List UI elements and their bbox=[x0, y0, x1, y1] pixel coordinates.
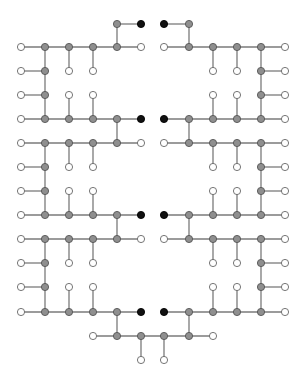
node-gray bbox=[113, 20, 120, 27]
node-black bbox=[137, 115, 144, 122]
node-gray bbox=[65, 211, 72, 218]
node-gray bbox=[137, 332, 144, 339]
node-gray bbox=[113, 332, 120, 339]
node-white bbox=[65, 283, 72, 290]
node-gray bbox=[233, 115, 240, 122]
node-gray bbox=[209, 43, 216, 50]
node-white bbox=[89, 163, 96, 170]
node-white bbox=[65, 91, 72, 98]
node-white bbox=[281, 259, 288, 266]
node-white bbox=[281, 43, 288, 50]
node-gray bbox=[41, 283, 48, 290]
node-gray bbox=[65, 115, 72, 122]
node-white bbox=[233, 163, 240, 170]
node-gray bbox=[185, 139, 192, 146]
node-gray bbox=[65, 235, 72, 242]
node-white bbox=[281, 163, 288, 170]
node-white bbox=[17, 308, 24, 315]
node-black bbox=[160, 308, 167, 315]
node-black bbox=[160, 115, 167, 122]
node-gray bbox=[41, 67, 48, 74]
node-white bbox=[89, 67, 96, 74]
node-gray bbox=[185, 308, 192, 315]
graph-diagram bbox=[0, 0, 302, 381]
node-gray bbox=[257, 67, 264, 74]
node-gray bbox=[41, 43, 48, 50]
node-gray bbox=[89, 115, 96, 122]
node-white bbox=[137, 356, 144, 363]
node-white bbox=[281, 308, 288, 315]
node-gray bbox=[209, 235, 216, 242]
node-gray bbox=[233, 308, 240, 315]
node-gray bbox=[185, 332, 192, 339]
node-white bbox=[233, 91, 240, 98]
node-white bbox=[137, 139, 144, 146]
node-white bbox=[281, 235, 288, 242]
node-gray bbox=[257, 187, 264, 194]
node-white bbox=[17, 283, 24, 290]
node-gray bbox=[41, 259, 48, 266]
node-white bbox=[89, 332, 96, 339]
node-white bbox=[17, 163, 24, 170]
node-white bbox=[89, 259, 96, 266]
node-white bbox=[89, 187, 96, 194]
node-gray bbox=[113, 43, 120, 50]
node-white bbox=[160, 235, 167, 242]
node-white bbox=[281, 67, 288, 74]
node-white bbox=[17, 235, 24, 242]
node-white bbox=[209, 332, 216, 339]
node-white bbox=[137, 43, 144, 50]
node-white bbox=[160, 139, 167, 146]
node-white bbox=[17, 187, 24, 194]
node-white bbox=[160, 43, 167, 50]
node-gray bbox=[257, 139, 264, 146]
node-gray bbox=[113, 308, 120, 315]
node-gray bbox=[65, 139, 72, 146]
node-white bbox=[160, 356, 167, 363]
node-white bbox=[17, 115, 24, 122]
node-gray bbox=[89, 211, 96, 218]
node-white bbox=[89, 283, 96, 290]
node-gray bbox=[41, 139, 48, 146]
node-white bbox=[233, 187, 240, 194]
node-gray bbox=[257, 211, 264, 218]
node-white bbox=[65, 187, 72, 194]
node-white bbox=[89, 91, 96, 98]
node-gray bbox=[233, 235, 240, 242]
node-gray bbox=[41, 187, 48, 194]
node-gray bbox=[89, 235, 96, 242]
node-gray bbox=[257, 235, 264, 242]
node-gray bbox=[257, 115, 264, 122]
node-gray bbox=[160, 332, 167, 339]
node-white bbox=[209, 187, 216, 194]
node-white bbox=[17, 67, 24, 74]
node-gray bbox=[65, 43, 72, 50]
node-white bbox=[233, 259, 240, 266]
node-gray bbox=[113, 211, 120, 218]
node-gray bbox=[185, 115, 192, 122]
node-gray bbox=[41, 163, 48, 170]
node-white bbox=[137, 235, 144, 242]
node-white bbox=[281, 211, 288, 218]
node-white bbox=[17, 43, 24, 50]
node-gray bbox=[233, 43, 240, 50]
node-gray bbox=[257, 91, 264, 98]
node-gray bbox=[209, 139, 216, 146]
node-white bbox=[17, 139, 24, 146]
node-gray bbox=[185, 43, 192, 50]
node-gray bbox=[113, 115, 120, 122]
node-white bbox=[65, 259, 72, 266]
node-black bbox=[137, 211, 144, 218]
graph-edges bbox=[21, 24, 285, 360]
node-white bbox=[209, 283, 216, 290]
node-gray bbox=[185, 20, 192, 27]
node-gray bbox=[89, 308, 96, 315]
node-gray bbox=[209, 308, 216, 315]
node-gray bbox=[209, 211, 216, 218]
node-white bbox=[209, 259, 216, 266]
node-gray bbox=[65, 308, 72, 315]
node-gray bbox=[233, 139, 240, 146]
node-black bbox=[137, 308, 144, 315]
node-white bbox=[281, 283, 288, 290]
node-white bbox=[17, 259, 24, 266]
